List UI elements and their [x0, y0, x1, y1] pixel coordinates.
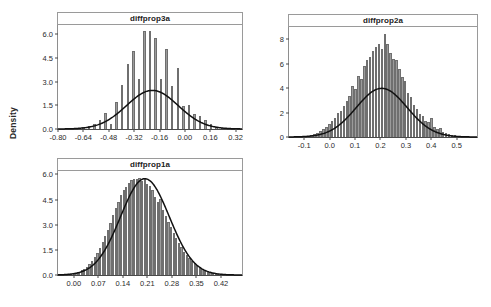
histogram-bar [149, 31, 151, 129]
histogram-bar [132, 51, 134, 129]
y-axis-tick-mark [55, 58, 58, 59]
histogram-bar [182, 106, 184, 129]
x-axis-tick-mark [73, 275, 74, 278]
x-axis-tick-mark [134, 129, 135, 132]
figure-root: Density diffprop3a 0.01.53.04.56.0-0.80-… [0, 0, 491, 307]
x-axis-tick-mark [108, 129, 109, 132]
y-axis-tick-mark [55, 249, 58, 250]
y-axis-tick-mark [55, 81, 58, 82]
y-axis-tick-mark [55, 199, 58, 200]
histogram-bar [104, 113, 106, 129]
y-axis-tick-mark [55, 105, 58, 106]
x-axis-tick-mark [210, 129, 211, 132]
x-axis-tick-mark [235, 129, 236, 132]
plot-frame: 0.01.53.04.56.00.000.070.140.210.280.350… [57, 171, 243, 276]
y-axis-tick-mark [286, 112, 289, 113]
histogram-bar [188, 105, 190, 129]
histogram-bar [199, 116, 201, 129]
y-axis-tick-mark [55, 34, 58, 35]
histogram-bar [177, 68, 179, 129]
histogram-bar [154, 38, 156, 129]
x-axis-tick-mark [329, 137, 330, 140]
histogram-bar [462, 136, 465, 137]
y-axis-tick-mark [286, 88, 289, 89]
x-axis-tick-mark [380, 137, 381, 140]
panel-title-bar: diffprop2a [288, 14, 478, 27]
y-axis-tick-mark [286, 63, 289, 64]
x-axis-tick-mark [405, 137, 406, 140]
y-axis-tick-mark [55, 275, 58, 276]
y-axis-label: Density [8, 93, 18, 153]
histogram-bar [221, 128, 223, 129]
x-axis-tick-mark [147, 275, 148, 278]
histogram-bar [138, 79, 140, 129]
panel-diffprop1a: diffprop1a 0.01.53.04.56.00.000.070.140.… [57, 158, 243, 276]
histogram-bar [99, 120, 101, 129]
y-axis-tick-mark [55, 174, 58, 175]
y-axis-tick-mark [55, 224, 58, 225]
panel-title: diffprop3a [58, 13, 242, 25]
histogram-bar [93, 124, 95, 129]
x-axis-tick-mark [220, 275, 221, 278]
x-axis-tick-mark [184, 129, 185, 132]
y-axis-tick-mark [286, 137, 289, 138]
histogram-bar [204, 120, 206, 129]
x-axis-tick-mark [83, 129, 84, 132]
x-axis-tick-mark [98, 275, 99, 278]
plot-area: 0.01.53.04.56.00.000.070.140.210.280.350… [58, 171, 242, 275]
histogram-bar [121, 85, 123, 129]
panel-title: diffprop2a [289, 15, 477, 27]
panel-diffprop3a: diffprop3a 0.01.53.04.56.0-0.80-0.64-0.4… [57, 12, 243, 130]
x-axis-tick-mark [431, 137, 432, 140]
x-axis-tick-mark [304, 137, 305, 140]
histogram-bar [143, 31, 145, 129]
x-axis-tick-mark [456, 137, 457, 140]
x-axis-tick-mark [122, 275, 123, 278]
x-axis-tick-mark [58, 129, 59, 132]
panel-diffprop2a: diffprop2a 02468-0.10.00.10.20.30.40.5 [288, 14, 478, 138]
histogram-bar [115, 102, 117, 129]
histogram-bar [165, 49, 167, 129]
plot-frame: 0.01.53.04.56.0-0.80-0.64-0.48-0.32-0.16… [57, 25, 243, 130]
panel-title: diffprop1a [58, 159, 242, 171]
histogram-bar [193, 114, 195, 129]
histogram-bar [160, 79, 162, 129]
x-axis-tick-mark [355, 137, 356, 140]
plot-area: 02468-0.10.00.10.20.30.40.5 [289, 27, 477, 137]
plot-area: 0.01.53.04.56.0-0.80-0.64-0.48-0.32-0.16… [58, 25, 242, 129]
histogram-bar [127, 64, 129, 129]
plot-frame: 02468-0.10.00.10.20.30.40.5 [288, 27, 478, 138]
panel-title-bar: diffprop1a [57, 158, 243, 171]
x-axis-tick-mark [171, 275, 172, 278]
x-axis-tick-mark [159, 129, 160, 132]
panel-title-bar: diffprop3a [57, 12, 243, 25]
y-axis-tick-mark [286, 39, 289, 40]
x-axis-tick-mark [196, 275, 197, 278]
histogram-bar [171, 86, 173, 129]
